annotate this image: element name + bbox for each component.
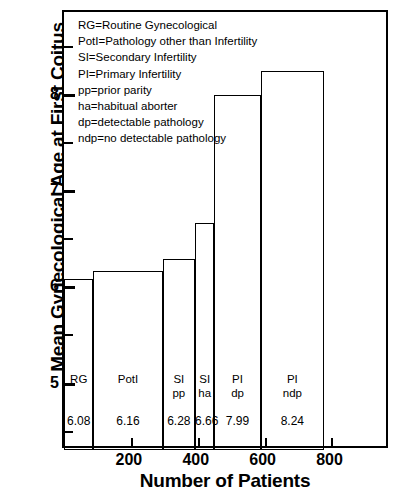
bar-label-line1: PI [214, 373, 260, 387]
bar-label-line1: PI [261, 373, 325, 387]
bar-label-line1: SI [163, 373, 195, 387]
x-axis-tick-label: 600 [249, 452, 276, 468]
legend-item: PI=Primary Infertility [78, 66, 257, 82]
y-axis-tick-label: 6 [50, 278, 59, 294]
bar-value-label: 6.28 [163, 415, 195, 427]
chart-figure: Mean Gynecological Age at First Coitus N… [0, 0, 398, 499]
bar-label-line2: ha [195, 387, 214, 401]
bar-label-line2: ndp [261, 387, 325, 401]
x-axis-tick-label: 200 [116, 452, 143, 468]
bar-label-line2: pp [163, 387, 195, 401]
x-axis-tick-label: 800 [316, 452, 343, 468]
plot-area: RG=Routine Gynecological PotI=Pathology … [62, 10, 388, 448]
y-axis-tick-label: 7 [50, 182, 59, 198]
y-axis-major-tick [64, 190, 75, 193]
bar-label-line1: PotI [93, 373, 162, 387]
y-axis-minor-tick [64, 142, 73, 144]
y-axis-major-tick [64, 94, 75, 97]
bar-value-label: 6.66 [195, 415, 214, 427]
bar-label: PotI [93, 373, 162, 387]
bar-label: SIha [195, 373, 214, 400]
x-axis-tick-label: 400 [182, 452, 209, 468]
bar-value-label: 7.99 [214, 415, 260, 427]
x-axis-tick [331, 438, 333, 446]
legend-item: RG=Routine Gynecological [78, 17, 257, 33]
bar-label: PIndp [261, 373, 325, 400]
y-axis-tick-label: 5 [50, 375, 59, 391]
bar-label: SIpp [163, 373, 195, 400]
bar-value-label: 6.16 [93, 415, 162, 427]
legend-item: PotI=Pathology other than Infertility [78, 33, 257, 49]
bar-value-label: 6.08 [64, 415, 93, 427]
bar-label: RG [64, 373, 93, 387]
legend-item: SI=Secondary Infertility [78, 49, 257, 65]
y-axis-minor-tick [64, 238, 73, 240]
y-axis-tick-label: 8 [50, 86, 59, 102]
bar-value-label: 8.24 [261, 415, 325, 427]
bar-label-line1: SI [195, 373, 214, 387]
bar-label: PIdp [214, 373, 260, 400]
bar-label-line1: RG [64, 373, 93, 387]
bar-label-line2: dp [214, 387, 260, 401]
y-axis-minor-tick [64, 46, 73, 48]
x-axis-title: Number of Patients [62, 470, 388, 492]
